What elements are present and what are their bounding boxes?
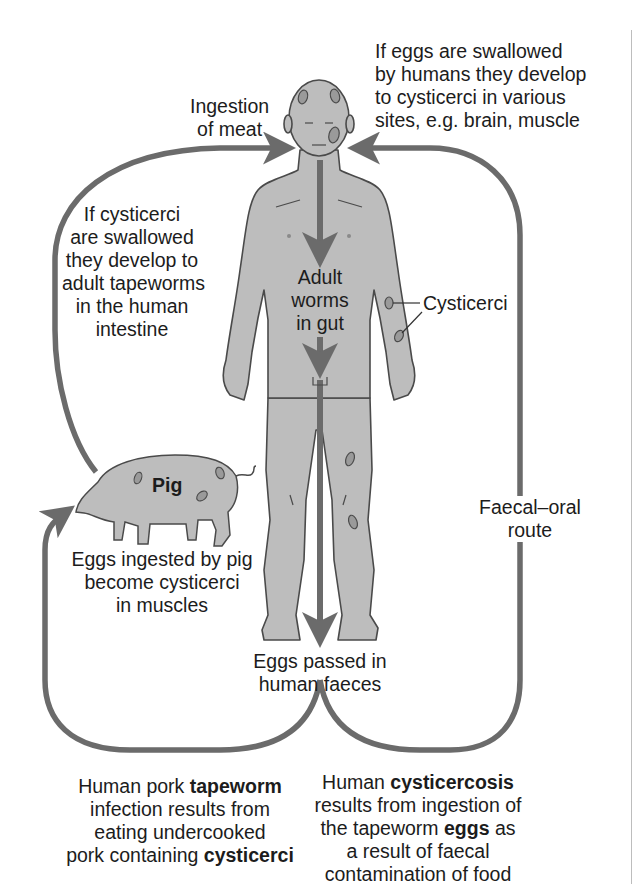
label-line: Faecal–oral [470, 496, 590, 519]
label-eggs-passed-in-faeces: Eggs passed in human faeces [245, 650, 395, 696]
label-line: in gut [290, 312, 350, 335]
label-line: Eggs passed in [245, 650, 395, 673]
label-cysticerci-swallowed: If cysticerci are swallowed they develop… [62, 203, 202, 341]
caption-text: Human [322, 771, 390, 793]
caption-bold-term: cysticercosis [390, 771, 514, 793]
label-line: become cysticerci [62, 571, 262, 594]
label-line: Cysticerci [423, 292, 508, 314]
label-line: Ingestion [190, 95, 269, 118]
caption-line: Human cysticercosis [300, 771, 536, 794]
label-line: by humans they develop [375, 63, 586, 86]
caption-cysticercosis: Human cysticercosis results from ingesti… [300, 771, 536, 884]
label-eggs-ingested-by-pig: Eggs ingested by pig become cysticerci i… [62, 548, 262, 617]
caption-line: infection results from [52, 798, 308, 821]
label-line: worms [290, 289, 350, 312]
diagram-artwork [0, 0, 638, 884]
pig-figure [76, 455, 256, 546]
caption-text: Human pork [78, 775, 190, 797]
label-pig: Pig [152, 474, 182, 497]
label-adult-worms-in-gut: Adult worms in gut [290, 266, 350, 335]
label-cysticerci: Cysticerci [423, 292, 508, 315]
label-faecal-oral-route: Faecal–oral route [470, 496, 590, 542]
label-line: Pig [152, 474, 182, 496]
caption-tapeworm-infection: Human pork tapeworm infection results fr… [52, 775, 308, 867]
tapeworm-lifecycle-diagram: Ingestion of meat If eggs are swallowed … [0, 0, 638, 884]
label-line: Eggs ingested by pig [62, 548, 262, 571]
label-ingestion-of-meat: Ingestion of meat [190, 95, 269, 141]
label-line: of meat [190, 118, 269, 141]
label-line: they develop to [62, 249, 202, 272]
label-line: sites, e.g. brain, muscle [375, 109, 586, 132]
label-line: intestine [62, 318, 202, 341]
label-eggs-swallowed-by-humans: If eggs are swallowed by humans they dev… [375, 40, 586, 132]
label-line: human faeces [245, 673, 395, 696]
label-line: If eggs are swallowed [375, 40, 586, 63]
caption-line: the tapeworm eggs as [300, 817, 536, 840]
caption-bold-term: tapeworm [190, 775, 282, 797]
label-line: adult tapeworms [62, 272, 202, 295]
label-line: If cysticerci [62, 203, 202, 226]
caption-text: the tapeworm [320, 817, 444, 839]
label-line: to cysticerci in various [375, 86, 586, 109]
caption-line: Human pork tapeworm [52, 775, 308, 798]
label-line: route [470, 519, 590, 542]
caption-line: pork containing cysticerci [52, 844, 308, 867]
caption-text: pork containing [66, 844, 204, 866]
caption-line: a result of faecal [300, 840, 536, 863]
label-line: Adult [290, 266, 350, 289]
label-line: in the human [62, 295, 202, 318]
label-line: in muscles [62, 594, 262, 617]
caption-text: as [490, 817, 516, 839]
caption-bold-term: cysticerci [204, 844, 294, 866]
caption-line: contamination of food [300, 863, 536, 884]
caption-bold-term: eggs [444, 817, 490, 839]
label-line: are swallowed [62, 226, 202, 249]
caption-line: eating undercooked [52, 821, 308, 844]
caption-line: results from ingestion of [300, 794, 536, 817]
